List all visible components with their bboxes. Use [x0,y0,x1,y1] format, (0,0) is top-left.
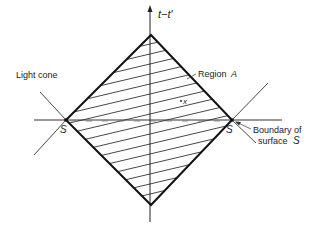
light-cone-right-a [232,83,268,120]
point-x-label: x [182,97,188,106]
right-s-label: S [226,124,233,135]
boundary-label-symbol: S [293,135,300,146]
light-cone-diagram: t−t′ Region A x Light cone S S Boundary … [0,0,317,235]
left-s-label: S [60,124,67,135]
light-cone-label: Light cone [16,70,58,80]
right-s-point [230,118,234,122]
time-axis-arrow-icon [148,5,153,12]
point-x-dot [180,100,182,102]
left-s-point [64,118,68,122]
boundary-label-line1: Boundary of [253,125,302,135]
time-axis-label: t−t′ [158,8,174,20]
region-symbol: A [230,69,237,79]
boundary-label-line2: surface [258,136,288,146]
light-cone-left-a [40,92,66,120]
region-label: Region [198,69,227,79]
